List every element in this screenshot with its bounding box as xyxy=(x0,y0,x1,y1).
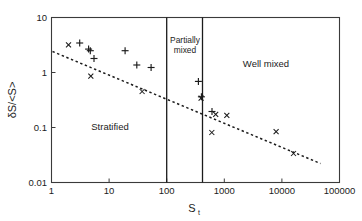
region-label-well-mixed: Well mixed xyxy=(243,58,289,69)
data-point-plus xyxy=(148,64,155,71)
data-point-plus xyxy=(122,47,129,54)
x-tick-label-5: 100000 xyxy=(324,185,356,196)
y-tick-label-2: 0.1 xyxy=(34,122,47,133)
data-point-plus xyxy=(195,78,202,85)
scatter-plot-svg: 1 10 100 1000 10000 100000 10 1 0.1 0.01… xyxy=(0,0,362,221)
region-label-partially-mixed-line1: Partially xyxy=(170,35,201,45)
x-tick-label-0: 1 xyxy=(49,185,54,196)
y-tick-label-1: 1 xyxy=(42,67,47,78)
data-point-plus xyxy=(209,108,216,115)
data-point-plus xyxy=(133,62,140,69)
region-label-stratified: Stratified xyxy=(91,121,129,132)
y-tick-label-3: 0.01 xyxy=(29,177,48,188)
figure-container: 1 10 100 1000 10000 100000 10 1 0.1 0.01… xyxy=(0,0,362,221)
y-tick-label-0: 10 xyxy=(36,12,47,23)
data-point-plus xyxy=(85,46,92,53)
data-point-x xyxy=(140,89,145,94)
data-point-x xyxy=(224,113,229,118)
data-point-x xyxy=(209,130,214,135)
x-axis-label-subscript: t xyxy=(198,209,200,216)
x-tick-label-3: 1000 xyxy=(214,185,235,196)
x-tick-label-1: 10 xyxy=(104,185,115,196)
x-axis-label: S t xyxy=(188,202,200,216)
data-point-plus xyxy=(76,40,83,47)
data-point-x xyxy=(88,74,93,79)
region-label-partially-mixed-line2: mixed xyxy=(174,45,197,55)
data-point-plus xyxy=(87,47,94,54)
x-axis-label-base: S xyxy=(188,202,195,214)
y-axis-label: δS/<S> xyxy=(6,82,18,119)
y-axis-ticks xyxy=(52,18,56,183)
data-point-plus xyxy=(91,55,98,62)
x-tick-label-4: 10000 xyxy=(269,185,295,196)
data-point-plus xyxy=(198,93,205,100)
data-point-x xyxy=(213,112,218,117)
data-point-x xyxy=(274,129,279,134)
x-axis-ticks xyxy=(52,179,340,183)
region-label-partially-mixed: Partially mixed xyxy=(170,35,201,55)
data-point-x xyxy=(66,42,71,47)
x-tick-label-2: 100 xyxy=(159,185,175,196)
